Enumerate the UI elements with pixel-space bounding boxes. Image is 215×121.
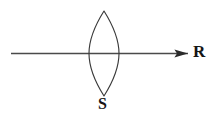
ray-label-r: R (193, 43, 205, 60)
diagram-canvas (0, 0, 215, 121)
lens-label-s: S (98, 96, 107, 112)
ray-diagram-figure: S R (0, 0, 215, 121)
